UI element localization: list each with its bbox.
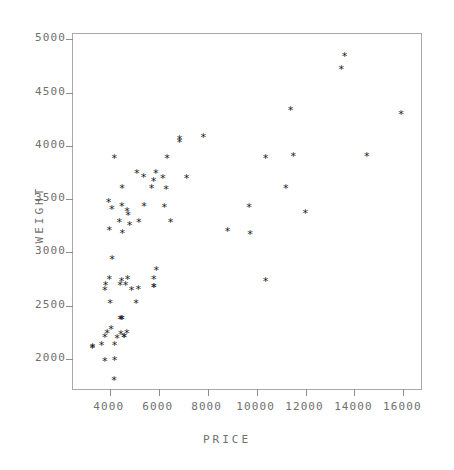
data-point: * bbox=[175, 135, 184, 144]
y-axis-tick-labels: 2000250030003500400045005000 bbox=[12, 33, 66, 390]
data-point: * bbox=[244, 203, 253, 212]
x-axis-tick bbox=[257, 389, 258, 396]
x-axis-tick-labels: 40006000800010000120001400016000 bbox=[72, 400, 422, 418]
x-axis-tick-label: 12000 bbox=[285, 400, 324, 413]
data-point: * bbox=[110, 154, 119, 163]
data-point: * bbox=[105, 299, 114, 308]
data-point: * bbox=[132, 299, 141, 308]
y-axis-tick-label: 3000 bbox=[20, 244, 66, 257]
x-axis-tick bbox=[354, 389, 355, 396]
data-point: * bbox=[147, 184, 156, 193]
y-axis-tick bbox=[66, 39, 73, 40]
x-axis-tick bbox=[110, 389, 111, 396]
data-point: * bbox=[122, 207, 131, 216]
data-point: * bbox=[261, 277, 270, 286]
data-point: * bbox=[105, 275, 114, 284]
data-point: * bbox=[158, 174, 167, 183]
data-point: * bbox=[281, 184, 290, 193]
data-point: * bbox=[115, 218, 124, 227]
data-point: * bbox=[118, 229, 127, 238]
y-axis-tick-label: 3500 bbox=[20, 191, 66, 204]
data-point: * bbox=[108, 255, 117, 264]
data-point: * bbox=[88, 344, 97, 353]
x-axis-tick-label: 4000 bbox=[93, 400, 124, 413]
data-point: * bbox=[104, 198, 113, 207]
data-point: * bbox=[397, 110, 406, 119]
x-axis-tick-label: 16000 bbox=[383, 400, 422, 413]
data-point: * bbox=[199, 133, 208, 142]
y-axis-tick bbox=[66, 252, 73, 253]
y-axis-tick bbox=[66, 306, 73, 307]
y-axis-tick-label: 4000 bbox=[20, 138, 66, 151]
data-point: * bbox=[162, 185, 171, 194]
data-point: * bbox=[286, 106, 295, 115]
x-axis-tick bbox=[208, 389, 209, 396]
data-point: * bbox=[223, 227, 232, 236]
x-axis-tick-label: 10000 bbox=[236, 400, 275, 413]
x-axis-tick bbox=[306, 389, 307, 396]
scatter-plot-figure: WEIGHT 2000250030003500400045005000 ****… bbox=[0, 0, 454, 470]
y-axis-tick-label: 2500 bbox=[20, 298, 66, 311]
data-point: * bbox=[120, 333, 129, 342]
y-axis-tick-label: 4500 bbox=[20, 85, 66, 98]
y-axis-tick-label: 2000 bbox=[20, 351, 66, 364]
data-point: * bbox=[118, 184, 127, 193]
y-axis-tick bbox=[66, 199, 73, 200]
y-axis-tick bbox=[66, 359, 73, 360]
data-point: * bbox=[182, 174, 191, 183]
data-point: * bbox=[246, 230, 255, 239]
data-point: * bbox=[301, 209, 310, 218]
x-axis-title: PRICE bbox=[0, 433, 454, 446]
data-point: * bbox=[103, 329, 112, 338]
data-point: * bbox=[149, 283, 158, 292]
x-axis-tick-label: 14000 bbox=[334, 400, 373, 413]
data-point: * bbox=[289, 152, 298, 161]
x-axis-tick-label: 8000 bbox=[191, 400, 222, 413]
plot-area: ****************************************… bbox=[72, 33, 422, 390]
data-point: * bbox=[337, 65, 346, 74]
data-point: * bbox=[362, 152, 371, 161]
data-point: * bbox=[340, 52, 349, 61]
data-point: * bbox=[160, 203, 169, 212]
data-point: * bbox=[163, 154, 172, 163]
y-axis-tick bbox=[66, 93, 73, 94]
data-point: * bbox=[139, 173, 148, 182]
x-axis-tick bbox=[403, 389, 404, 396]
y-axis-tick bbox=[66, 146, 73, 147]
data-point: * bbox=[110, 376, 119, 385]
data-point: * bbox=[139, 202, 148, 211]
data-point: * bbox=[116, 281, 125, 290]
data-point: * bbox=[110, 356, 119, 365]
x-axis-tick bbox=[159, 389, 160, 396]
data-point: * bbox=[134, 218, 143, 227]
data-points-layer: ****************************************… bbox=[73, 34, 421, 389]
data-point: * bbox=[166, 218, 175, 227]
data-point: * bbox=[117, 315, 126, 324]
y-axis-tick-label: 5000 bbox=[20, 31, 66, 44]
x-axis-tick-label: 6000 bbox=[142, 400, 173, 413]
data-point: * bbox=[100, 357, 109, 366]
data-point: * bbox=[261, 154, 270, 163]
data-point: * bbox=[105, 226, 114, 235]
